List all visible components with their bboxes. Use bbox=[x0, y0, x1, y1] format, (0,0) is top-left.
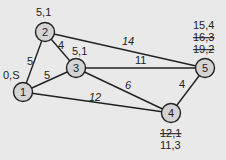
label-node-5-final: 15,4 bbox=[193, 19, 214, 31]
node-5: 5 bbox=[196, 59, 215, 78]
label-node-4-final: 11,3 bbox=[160, 139, 181, 151]
weight-1-3: 5 bbox=[44, 69, 50, 81]
weight-3-5: 11 bbox=[135, 54, 146, 66]
label-node-5-old-1: 16,3 bbox=[193, 31, 214, 43]
svg-text:3: 3 bbox=[73, 62, 79, 74]
svg-text:2: 2 bbox=[42, 26, 48, 38]
label-node-3: 5,1 bbox=[72, 45, 87, 57]
label-node-4-old: 12,1 bbox=[160, 127, 181, 139]
label-node-5-old-2: 19,2 bbox=[193, 43, 214, 55]
node-1: 1 bbox=[14, 83, 33, 102]
weight-1-4: 12 bbox=[89, 91, 101, 103]
node-2: 2 bbox=[36, 23, 55, 42]
label-node-2: 5,1 bbox=[36, 6, 51, 18]
node-4: 4 bbox=[162, 104, 181, 123]
node-3: 3 bbox=[67, 59, 86, 78]
weight-4-5: 4 bbox=[179, 78, 185, 90]
svg-text:1: 1 bbox=[20, 86, 26, 98]
weight-3-4: 6 bbox=[125, 79, 132, 91]
shortest-path-graph: 5 5 12 4 14 11 6 4 1 2 3 4 5 0,S 5,1 5,1… bbox=[0, 0, 226, 160]
weight-2-5: 14 bbox=[122, 35, 134, 47]
label-node-1: 0,S bbox=[3, 69, 20, 81]
weight-1-2: 5 bbox=[27, 55, 33, 67]
svg-text:4: 4 bbox=[168, 107, 174, 119]
svg-text:5: 5 bbox=[202, 62, 208, 74]
weight-2-3: 4 bbox=[58, 39, 64, 51]
